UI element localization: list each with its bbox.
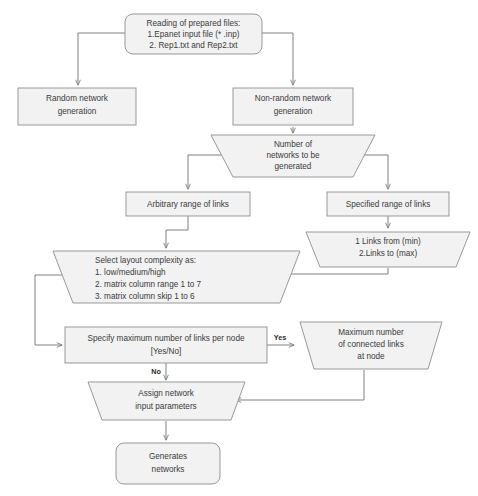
node-specify-max-links-shape <box>65 327 267 363</box>
node-links-min-max-line2: 2.Links to (max) <box>359 249 418 258</box>
node-arbitrary-range-label: Arbitrary range of links <box>147 200 229 209</box>
node-specified-range: Specified range of links <box>327 192 449 216</box>
node-links-min-max: 1 Links from (min) 2.Links to (max) <box>306 232 470 267</box>
node-generates-networks-line2: networks <box>152 465 185 474</box>
node-nonrandom-generation: Non-random network generation <box>233 88 353 125</box>
node-number-of-networks-line3: generated <box>275 162 312 171</box>
flowchart-diagram: Reading of prepared files: 1.Epanet inpu… <box>0 0 478 496</box>
node-max-connected-links-line2: of connected links <box>338 340 404 349</box>
connector-layout-to-specify <box>35 275 67 345</box>
node-number-of-networks-line2: networks to be <box>266 151 320 160</box>
node-max-connected-links-line1: Maximum number <box>338 328 404 337</box>
node-links-min-max-line1: 1 Links from (min) <box>355 237 421 246</box>
node-number-of-networks-line1: Number of <box>274 140 313 149</box>
edge-label-yes: Yes <box>274 333 286 342</box>
node-assign-parameters-shape <box>88 382 245 420</box>
node-generates-networks-line1: Generates <box>149 452 187 461</box>
node-max-connected-links-line3: at node <box>357 352 385 361</box>
node-arbitrary-range: Arbitrary range of links <box>126 192 250 216</box>
node-random-generation-line1: Random network <box>46 94 109 103</box>
node-assign-parameters-line1: Assign network <box>138 389 194 398</box>
connector-max-to-assign <box>236 370 364 400</box>
node-specify-max-links: Specify maximum number of links per node… <box>65 327 267 363</box>
node-number-of-networks: Number of networks to be generated <box>211 135 375 177</box>
node-reading-files-line2: 1.Epanet input file (* .inp) <box>148 30 240 39</box>
node-assign-parameters-line2: input parameters <box>135 402 196 411</box>
node-max-connected-links: Maximum number of connected links at nod… <box>300 322 442 369</box>
node-generates-networks-shape <box>116 443 220 484</box>
node-reading-files-line1: Reading of prepared files: <box>147 19 241 28</box>
node-nonrandom-generation-line2: generation <box>274 107 313 116</box>
connector-reading-to-random <box>78 33 125 85</box>
flowchart-canvas: Reading of prepared files: 1.Epanet inpu… <box>0 0 478 496</box>
node-layout-complexity-line3: 2. matrix column range 1 to 7 <box>95 280 201 289</box>
connector-reading-to-nonrandom <box>262 33 293 85</box>
node-assign-parameters: Assign network input parameters <box>88 382 245 420</box>
node-layout-complexity: Select layout complexity as: 1. low/medi… <box>53 251 300 303</box>
node-specify-max-links-line2: [Yes/No] <box>151 347 182 356</box>
node-reading-files: Reading of prepared files: 1.Epanet inpu… <box>125 14 262 54</box>
node-generates-networks: Generates networks <box>116 443 220 484</box>
node-layout-complexity-line4: 3. matrix column skip 1 to 6 <box>95 292 195 301</box>
node-layout-complexity-line2: 1. low/medium/high <box>95 268 166 277</box>
node-random-generation: Random network generation <box>18 88 136 125</box>
node-layout-complexity-line1: Select layout complexity as: <box>95 256 196 265</box>
connector-arbitrary-to-layout <box>166 215 188 248</box>
node-specified-range-label: Specified range of links <box>346 200 431 209</box>
node-specify-max-links-line1: Specify maximum number of links per node <box>88 334 245 343</box>
node-nonrandom-generation-line1: Non-random network <box>255 94 332 103</box>
edge-label-no: No <box>151 367 161 376</box>
node-reading-files-line3: 2. Rep1.txt and Rep2.txt <box>149 41 238 50</box>
node-random-generation-line2: generation <box>58 107 97 116</box>
